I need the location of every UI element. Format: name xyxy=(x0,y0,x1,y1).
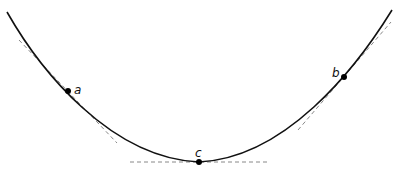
point-c-label: c xyxy=(195,146,202,160)
point-a xyxy=(65,88,71,94)
convex-curve xyxy=(7,10,392,162)
convex-curve-diagram: a b c xyxy=(0,0,399,175)
point-a-label: a xyxy=(74,83,81,97)
point-b xyxy=(341,74,347,80)
point-b-label: b xyxy=(332,66,340,80)
